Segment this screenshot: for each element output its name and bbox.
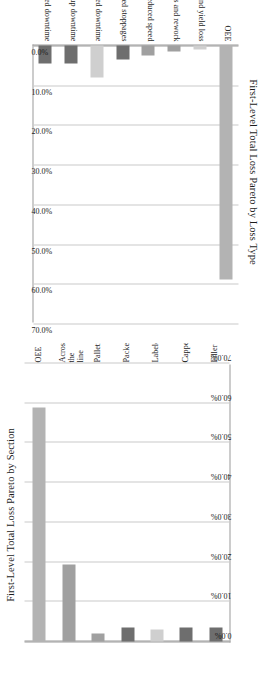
- bar: [150, 629, 163, 641]
- category-label: OEE: [34, 343, 43, 362]
- category-label: Minor unrecorded stoppages: [119, 0, 128, 41]
- bar: [91, 633, 104, 641]
- category-axis-labels: Planned downtimeSetup downtimeUnplanned …: [32, 0, 238, 44]
- pareto-chart-section: First-Level Total Loss Pareto by Section…: [0, 343, 262, 686]
- axis-tick-label: 10.0%: [31, 87, 52, 96]
- value-axis-ticks: 0.0%10.0%20.0%30.0%40.0%50.0%60.0%70.0%: [1, 44, 31, 322]
- axis-tick-label: 20.0%: [210, 551, 231, 560]
- category-label: Planned downtime: [41, 0, 50, 41]
- bar: [167, 45, 180, 51]
- bar: [62, 564, 75, 641]
- plot-area: [32, 44, 238, 322]
- chart-title: First-Level Total Loss Pareto by Section: [4, 343, 15, 686]
- axis-tick-label: 50.0%: [210, 431, 231, 440]
- bar: [116, 45, 129, 59]
- gridline: [24, 561, 229, 562]
- bar: [219, 45, 232, 279]
- bar: [32, 407, 45, 641]
- gridline: [33, 124, 238, 125]
- category-label: Capper: [181, 343, 190, 362]
- axis-tick-label: 0.0%: [31, 47, 48, 56]
- axis-tick-label: 30.0%: [210, 511, 231, 520]
- chart-title: First-Level Total Loss Pareto by Loss Ty…: [247, 0, 258, 343]
- category-label: Acrossthe line: [58, 343, 85, 362]
- gridline: [33, 85, 238, 86]
- bar: [90, 45, 103, 77]
- category-label: Labeler: [151, 343, 160, 362]
- axis-tick-label: 60.0%: [210, 392, 231, 401]
- gridline: [24, 521, 229, 522]
- gridline: [33, 164, 238, 165]
- chart-panel-section: First-Level Total Loss Pareto by Section…: [0, 343, 262, 686]
- gridline: [33, 204, 238, 205]
- axis-tick-label: 40.0%: [31, 206, 52, 215]
- gridline: [33, 244, 238, 245]
- pareto-chart-loss-type: First-Level Total Loss Pareto by Loss Ty…: [0, 0, 262, 343]
- chart-panel-loss-type: First-Level Total Loss Pareto by Loss Ty…: [0, 0, 262, 343]
- axis-tick-label: 20.0%: [31, 126, 52, 135]
- gridline: [33, 283, 238, 284]
- figure-page: First-Level Total Loss Pareto by Loss Ty…: [0, 0, 262, 686]
- axis-tick-label: 10.0%: [210, 590, 231, 599]
- gridline: [33, 323, 238, 324]
- category-label: Unplanned recorded downtime: [93, 0, 102, 41]
- category-label: OEE: [222, 25, 231, 41]
- gridline: [24, 441, 229, 442]
- axis-tick-label: 60.0%: [31, 285, 52, 294]
- gridline: [24, 402, 229, 403]
- bar: [64, 45, 77, 63]
- category-label: Packer: [122, 343, 131, 362]
- axis-tick-label: 40.0%: [210, 471, 231, 480]
- bar: [179, 627, 192, 641]
- category-label: Rejects and rework: [170, 0, 179, 41]
- axis-tick-label: 0.0%: [214, 630, 231, 639]
- bar: [193, 45, 206, 49]
- category-label: Reduced speed: [144, 0, 153, 41]
- category-label: Start-up and yield loss: [196, 0, 205, 41]
- axis-tick-label: 30.0%: [31, 166, 52, 175]
- category-label: Setup downtime: [67, 0, 76, 41]
- plot-area: [24, 364, 230, 642]
- gridline: [24, 600, 229, 601]
- bar: [121, 627, 134, 641]
- category-axis-labels: FillerCapperLabelerPackerPalletizerAcros…: [24, 343, 230, 364]
- axis-tick-label: 50.0%: [31, 246, 52, 255]
- axis-tick-label: 70.0%: [210, 352, 231, 361]
- axis-tick-label: 70.0%: [31, 325, 52, 334]
- bar: [141, 45, 154, 55]
- category-label: Palletizer: [93, 343, 102, 362]
- gridline: [24, 481, 229, 482]
- value-axis-ticks: 0.0%10.0%20.0%30.0%40.0%50.0%60.0%70.0%: [231, 364, 261, 642]
